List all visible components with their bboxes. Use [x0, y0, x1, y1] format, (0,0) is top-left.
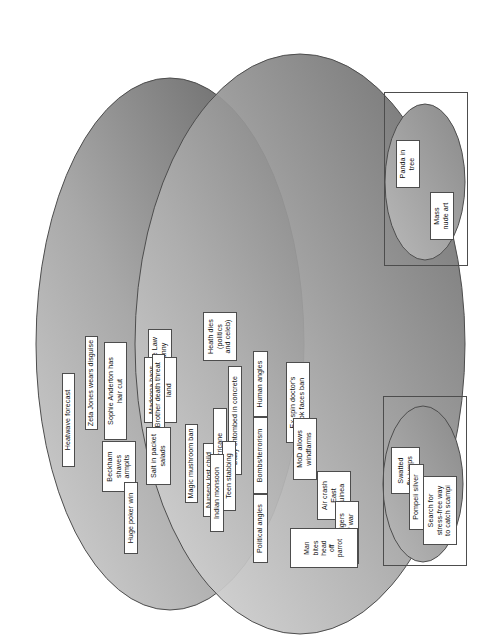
label-salt-in-packet-salads[interactable]: Salt in packet salads — [146, 427, 171, 485]
label-panda-in-tree[interactable]: Panda in tree — [396, 140, 420, 188]
label-heatwave[interactable]: Heatwave forecast — [62, 373, 75, 467]
label-mass-nude-art[interactable]: Mass nude art — [430, 192, 454, 240]
label-pompeii-silver[interactable]: Pompeii silver — [409, 464, 424, 530]
label-zeta-jones[interactable]: Zeta Jones wears disguise — [85, 336, 98, 430]
label-sophie-anderton[interactable]: Sophie Anderton has hair cut — [104, 342, 127, 440]
label-man-bites-parrot[interactable]: Man bites head off parrot — [290, 528, 358, 568]
label-mod-windfarms[interactable]: MoD allows windfarms — [293, 418, 317, 480]
label-scampi[interactable]: Search for stress-free way to catch scam… — [423, 476, 457, 545]
label-magic-mushroom[interactable]: Magic mushroom ban — [185, 424, 198, 503]
label-indian-monsoon[interactable]: Indian monsoon — [210, 454, 224, 532]
label-bombs-terrorism[interactable]: Bombs/terrorism — [253, 417, 268, 494]
diagram-canvas: Beckham shaves armpits Zeta Jones wears … — [0, 0, 482, 644]
label-human-angles[interactable]: Human angles — [253, 351, 268, 417]
diagram-stage: Beckham shaves armpits Zeta Jones wears … — [0, 0, 482, 644]
label-heath-dies[interactable]: Heath dies (politics and celeb) — [203, 312, 237, 361]
label-teen-stabbing[interactable]: Teen stabbing — [222, 441, 236, 511]
label-political-angles[interactable]: Political angles — [253, 494, 268, 563]
label-huge-poker-win[interactable]: Huge poker win — [124, 482, 138, 554]
